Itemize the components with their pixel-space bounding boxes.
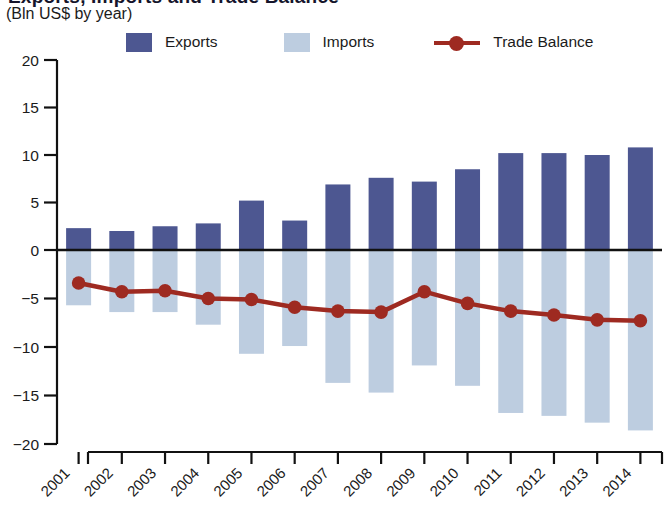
export-bar bbox=[153, 226, 178, 250]
trade-balance-point bbox=[374, 305, 388, 319]
trade-chart: Exports, Imports and Trade Balance (Bln … bbox=[0, 0, 668, 508]
trade-balance-point bbox=[418, 285, 432, 299]
trade-balance-point bbox=[634, 314, 648, 328]
x-tick-label: 2007 bbox=[296, 464, 332, 500]
x-tick-label: 2001 bbox=[37, 464, 73, 500]
y-tick-label: 10 bbox=[22, 147, 40, 164]
x-tick-label: 2006 bbox=[253, 464, 289, 500]
export-bar bbox=[628, 147, 653, 250]
imports-bars bbox=[66, 250, 653, 430]
trade-balance-point bbox=[288, 300, 302, 314]
x-tick-label: 2010 bbox=[426, 464, 462, 500]
trade-balance-point bbox=[158, 284, 172, 298]
trade-balance-point bbox=[461, 297, 475, 311]
exports-bars bbox=[66, 147, 653, 250]
import-bar bbox=[282, 250, 307, 346]
export-bar bbox=[498, 153, 523, 250]
x-tick-label: 2014 bbox=[599, 464, 635, 500]
export-bar bbox=[585, 155, 610, 250]
x-axis bbox=[79, 452, 662, 464]
x-tick-label: 2004 bbox=[167, 464, 203, 500]
y-tick-labels: 20151050−5−10−15−20 bbox=[13, 52, 40, 453]
export-bar bbox=[282, 221, 307, 250]
y-tick-label: −15 bbox=[13, 387, 39, 404]
import-bar bbox=[585, 250, 610, 423]
export-bar bbox=[239, 201, 264, 250]
trade-balance-point bbox=[590, 313, 604, 327]
x-tick-label: 2013 bbox=[556, 464, 592, 500]
import-bar bbox=[541, 250, 566, 416]
export-bar bbox=[369, 178, 394, 250]
import-bar bbox=[412, 250, 437, 365]
x-tick-label: 2003 bbox=[124, 464, 160, 500]
x-tick-label: 2011 bbox=[470, 464, 505, 499]
trade-balance-point bbox=[115, 285, 129, 299]
import-bar bbox=[153, 250, 178, 312]
x-tick-label: 2005 bbox=[210, 464, 246, 500]
export-bar bbox=[412, 182, 437, 250]
import-bar bbox=[196, 250, 221, 325]
x-tick-label: 2008 bbox=[340, 464, 376, 500]
y-tick-label: −20 bbox=[13, 436, 40, 453]
import-bar bbox=[628, 250, 653, 430]
import-bar bbox=[455, 250, 480, 386]
export-bar bbox=[325, 184, 350, 250]
trade-balance-point bbox=[245, 293, 259, 307]
trade-balance-point bbox=[331, 304, 345, 318]
x-tick-labels: 2001200220032004200520062007200820092010… bbox=[37, 464, 634, 500]
y-tick-label: −10 bbox=[13, 339, 40, 356]
trade-balance-point bbox=[547, 308, 561, 322]
export-bar bbox=[455, 169, 480, 250]
x-tick-label: 2002 bbox=[80, 464, 116, 500]
y-axis bbox=[44, 60, 57, 444]
y-tick-label: −5 bbox=[21, 290, 39, 307]
export-bar bbox=[66, 228, 91, 250]
trade-balance-point bbox=[72, 276, 86, 290]
y-tick-label: 20 bbox=[22, 52, 40, 69]
import-bar bbox=[498, 250, 523, 413]
y-tick-label: 15 bbox=[22, 99, 39, 116]
export-bar bbox=[109, 231, 134, 250]
y-tick-label: 0 bbox=[30, 242, 39, 259]
trade-balance-point bbox=[504, 304, 518, 318]
y-tick-label: 5 bbox=[30, 194, 39, 211]
trade-balance-point bbox=[201, 292, 215, 306]
export-bar bbox=[541, 153, 566, 250]
export-bar bbox=[196, 223, 221, 250]
x-tick-label: 2009 bbox=[383, 464, 419, 500]
import-bar bbox=[109, 250, 134, 312]
plot-area: 20151050−5−10−15−20 20012002200320042005… bbox=[0, 0, 668, 508]
x-tick-label: 2012 bbox=[512, 464, 548, 500]
import-bar bbox=[369, 250, 394, 393]
